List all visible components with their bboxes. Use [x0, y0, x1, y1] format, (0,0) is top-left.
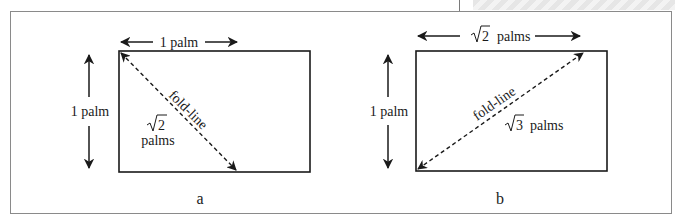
width-unit-b: palms — [497, 29, 530, 44]
height-label-a: 1 palm — [71, 104, 110, 119]
height-label-b: 1 palm — [370, 104, 409, 119]
fold-line-diagonal-a — [121, 53, 236, 170]
square-rectangle-a — [119, 51, 310, 172]
panel-b: 2 palms 1 palm fold-line 3 palms b — [370, 26, 607, 207]
sqrt-radicand-width-b: 2 — [482, 29, 489, 44]
diagonal-unit-b: palms — [530, 118, 563, 133]
rectangle-b — [416, 51, 607, 171]
sqrt-radicand-a: 2 — [158, 118, 165, 133]
panel-a: 1 palm 1 palm fold-line 2 palms a — [71, 35, 310, 207]
width-label-b: 2 palms — [471, 26, 530, 44]
sqrt-radicand-b: 3 — [516, 118, 523, 133]
panel-caption-a: a — [196, 190, 203, 207]
diagonal-length-b: 3 palms — [505, 115, 563, 133]
fold-line-label-a: fold-line — [166, 88, 211, 133]
fold-line-diagram: 1 palm 1 palm fold-line 2 palms a 2 palm… — [0, 0, 685, 224]
fold-line-diagonal-b — [418, 53, 583, 169]
width-label-a: 1 palm — [160, 35, 199, 50]
panel-caption-b: b — [496, 190, 504, 207]
diagonal-length-a: 2 palms — [141, 115, 174, 148]
diagonal-unit-a: palms — [141, 133, 174, 148]
